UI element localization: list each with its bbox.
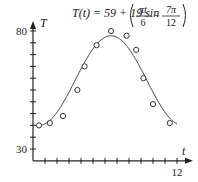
data-point [124, 33, 129, 38]
x-axis-arrow [185, 158, 193, 164]
data-point [167, 120, 172, 125]
formula-frac2-num: 7π [166, 4, 177, 15]
formula-annotation: T(t) = 59 + 19 sin πt 6 − 7π 12 [72, 4, 186, 28]
data-point [134, 47, 139, 52]
formula-minus: − [153, 9, 159, 21]
x-axis-label: t [182, 144, 186, 158]
data-point [150, 102, 155, 107]
data-point [141, 76, 146, 81]
x-tick-label-12: 12 [172, 166, 183, 178]
formula-frac1-den: 6 [141, 17, 146, 28]
model-curve [39, 36, 177, 126]
data-point [60, 113, 65, 118]
data-point [82, 64, 87, 69]
y-axis-label: T [40, 16, 48, 30]
data-point [94, 43, 99, 48]
y-tick-label-30: 30 [16, 143, 28, 155]
data-point [75, 87, 80, 92]
formula-frac1-num: πt [139, 4, 147, 15]
data-point [108, 28, 113, 33]
chart: T t 80 30 12 T(t) = 59 + 19 sin πt 6 − 7… [0, 0, 198, 182]
data-point [47, 120, 52, 125]
y-tick-label-80: 80 [16, 25, 28, 37]
formula-frac2-den: 12 [166, 17, 176, 28]
formula-right-paren [183, 4, 186, 27]
axes [30, 21, 193, 164]
data-point [36, 123, 41, 128]
y-axis-arrow [30, 21, 36, 29]
